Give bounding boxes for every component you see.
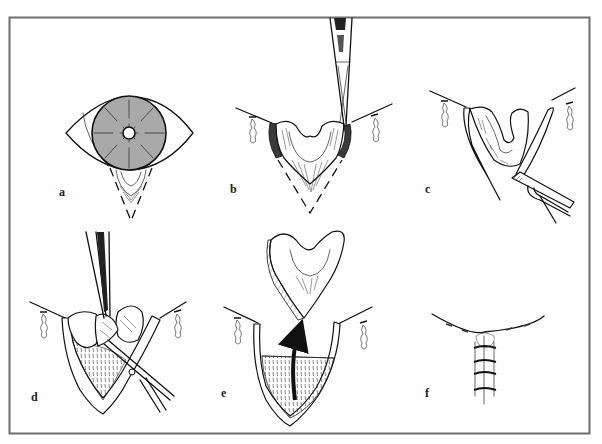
sutures [474,342,496,396]
panel-d: d [30,232,186,414]
traction-suture-left [441,101,448,127]
traction-suture-right [566,102,573,130]
traction-suture-left [234,318,241,344]
excised-wedge [270,231,345,318]
scissors [512,172,574,223]
panel-a: a [59,96,193,221]
panel-f: f [425,314,544,404]
traction-suture-left [40,312,47,338]
panel-label-e: e [221,386,227,400]
panel-e: e [221,231,372,426]
panel-label-b: b [230,182,237,196]
pupil [123,127,135,139]
closed-lid-margin [432,314,544,333]
panel-label-d: d [31,390,38,404]
panel-c: c [425,88,575,223]
traction-suture-right [174,310,181,338]
traction-suture-left [249,117,256,143]
excision-outline [110,168,152,221]
panel-label-c: c [425,182,431,196]
surgical-figure: a b [0,0,602,444]
forceps [330,18,352,126]
panel-label-a: a [59,185,65,199]
traction-suture-right [371,114,379,142]
panel-label-f: f [425,386,430,400]
traction-suture-right [360,321,367,349]
panel-b: b [230,18,392,213]
forceps [86,232,110,318]
